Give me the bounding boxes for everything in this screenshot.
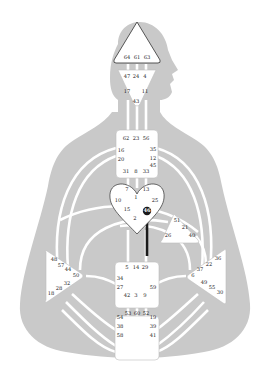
gate-23[interactable]: 23	[133, 135, 140, 141]
gate-29[interactable]: 29	[142, 264, 149, 270]
gate-51[interactable]: 51	[174, 217, 181, 223]
gate-10[interactable]: 10	[115, 197, 122, 203]
gate-28[interactable]: 28	[56, 285, 63, 291]
gate-31[interactable]: 31	[123, 168, 130, 174]
gate-2[interactable]: 2	[133, 215, 136, 221]
gate-21[interactable]: 21	[182, 224, 189, 230]
gate-5[interactable]: 5	[125, 264, 128, 270]
gate-38[interactable]: 38	[117, 323, 124, 329]
gate-35[interactable]: 35	[150, 146, 157, 152]
gate-16[interactable]: 16	[118, 147, 125, 153]
gate-36[interactable]: 36	[215, 255, 222, 261]
gate-49[interactable]: 49	[201, 279, 208, 285]
gate-30[interactable]: 30	[217, 289, 224, 295]
gate-24[interactable]: 24	[133, 73, 140, 79]
gate-45[interactable]: 45	[150, 162, 157, 168]
gate-42[interactable]: 42	[124, 292, 131, 298]
gate-59[interactable]: 59	[150, 284, 157, 290]
gate-15[interactable]: 15	[124, 206, 131, 212]
gate-27[interactable]: 27	[117, 284, 124, 290]
gate-8[interactable]: 8	[134, 168, 137, 174]
gate-13[interactable]: 13	[143, 186, 150, 192]
gate-55[interactable]: 55	[209, 284, 216, 290]
gate-56[interactable]: 56	[143, 135, 150, 141]
gate-3[interactable]: 3	[134, 292, 137, 298]
gate-43[interactable]: 43	[133, 98, 140, 104]
gate-62[interactable]: 62	[123, 135, 130, 141]
gate-52[interactable]: 52	[143, 310, 150, 316]
gate-50[interactable]: 50	[73, 272, 80, 278]
gate-47[interactable]: 47	[124, 73, 131, 79]
gate-39[interactable]: 39	[150, 323, 157, 329]
bodygraph: 64 61 63 47 24 4 17 11 43 62 23 56 16 35…	[0, 0, 269, 376]
gate-40[interactable]: 40	[189, 232, 196, 238]
gate-18[interactable]: 18	[48, 290, 55, 296]
sacral-center[interactable]: 5 14 29 34 27 59 42 3 9	[115, 262, 159, 308]
gate-6[interactable]: 6	[191, 272, 194, 278]
gate-64[interactable]: 64	[124, 54, 131, 60]
gate-7[interactable]: 7	[125, 186, 128, 192]
gate-63[interactable]: 63	[144, 54, 151, 60]
gate-33[interactable]: 33	[143, 168, 150, 174]
gate-32[interactable]: 32	[64, 280, 71, 286]
gate-41[interactable]: 41	[150, 332, 157, 338]
throat-center[interactable]: 62 23 56 16 35 20 12 45 31 8 33	[116, 130, 158, 178]
gate-60[interactable]: 60	[134, 310, 141, 316]
gate-1[interactable]: 1	[134, 194, 137, 200]
root-center[interactable]: 53 60 52 54 19 38 39 58 41	[115, 310, 159, 360]
gate-22[interactable]: 22	[206, 261, 213, 267]
gate-20[interactable]: 20	[118, 156, 125, 162]
gate-19[interactable]: 19	[150, 314, 157, 320]
gate-57[interactable]: 57	[58, 262, 65, 268]
gate-54[interactable]: 54	[117, 314, 124, 320]
gate-48[interactable]: 48	[51, 256, 58, 262]
gate-61[interactable]: 61	[134, 54, 141, 60]
gate-25[interactable]: 25	[152, 197, 159, 203]
gate-17[interactable]: 17	[124, 88, 131, 94]
gate-9[interactable]: 9	[143, 292, 146, 298]
gate-26[interactable]: 26	[165, 232, 172, 238]
gate-37[interactable]: 37	[197, 266, 204, 272]
gate-34[interactable]: 34	[117, 275, 124, 281]
gate-12[interactable]: 12	[150, 155, 157, 161]
gate-58[interactable]: 58	[117, 332, 124, 338]
gate-44[interactable]: 44	[65, 266, 72, 272]
gate-11[interactable]: 11	[142, 88, 149, 94]
gate-53[interactable]: 53	[125, 310, 132, 316]
gate-46[interactable]: 46	[143, 207, 151, 213]
gate-14[interactable]: 14	[133, 264, 140, 270]
